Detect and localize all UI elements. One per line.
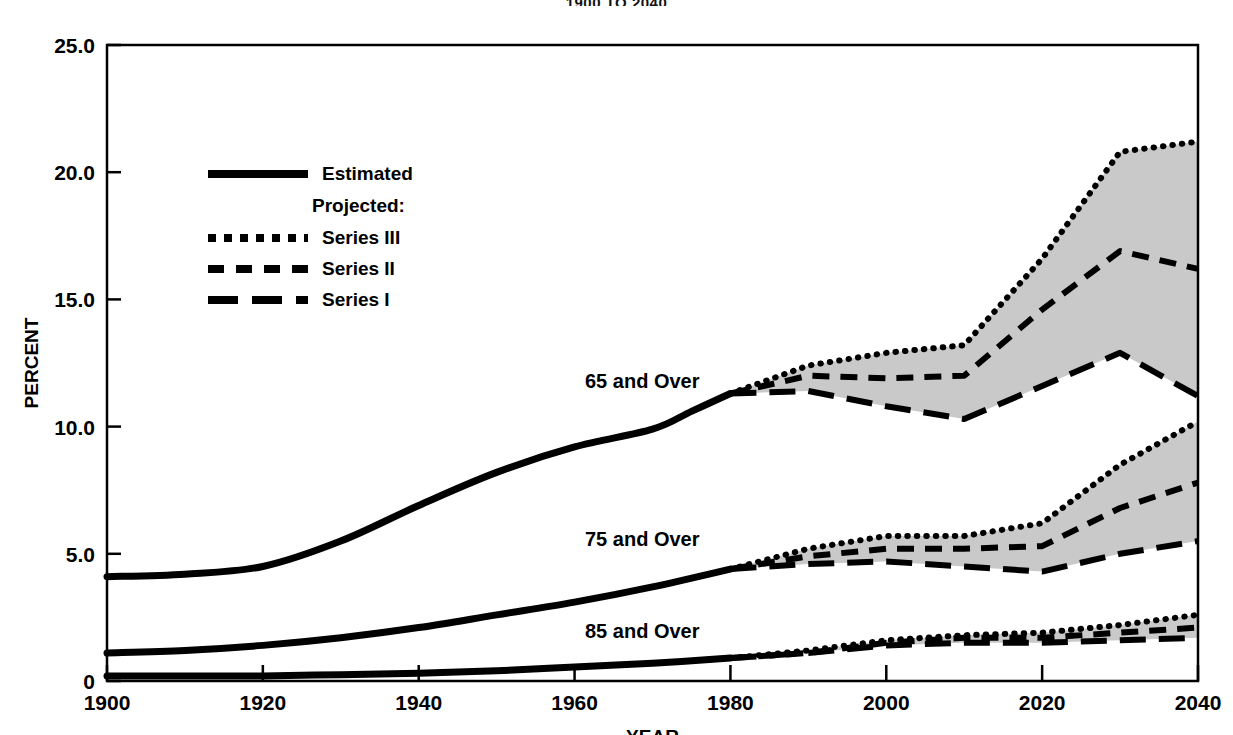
x-tick-label: 1980 — [707, 691, 754, 714]
x-tick-label: 2040 — [1175, 691, 1222, 714]
x-tick-label: 2020 — [1019, 691, 1066, 714]
population-percent-line-chart: 25.020.015.010.05.0019001920194019601980… — [0, 0, 1233, 735]
series-lines — [107, 142, 1198, 676]
legend-series-i-label: Series I — [322, 289, 390, 310]
y-tick-label: 5.0 — [66, 543, 95, 566]
x-tick-label: 1960 — [551, 691, 598, 714]
x-tick-label: 1900 — [84, 691, 131, 714]
y-tick-label: 20.0 — [54, 161, 95, 184]
y-axis-title: PERCENT — [21, 317, 42, 408]
chart-page: 1900 TO 2040 25.020.015.010.05.001900192… — [0, 0, 1233, 735]
y-tick-label: 15.0 — [54, 288, 95, 311]
y-tick-label: 25.0 — [54, 34, 95, 57]
series-annotations: 65 and Over75 and Over85 and Over — [585, 370, 700, 642]
legend-series-iii-label: Series III — [322, 227, 400, 248]
chart-legend: EstimatedProjected:Series IIISeries IISe… — [208, 163, 413, 310]
legend-series-ii-label: Series II — [322, 258, 395, 279]
legend-projected-header-label: Projected: — [312, 195, 405, 216]
x-tick-label: 1920 — [239, 691, 286, 714]
annotation-85-and-over: 85 and Over — [585, 620, 700, 642]
projection-bands — [730, 142, 1198, 658]
annotation-75-and-over: 75 and Over — [585, 528, 700, 550]
x-axis-title: YEAR — [626, 726, 679, 735]
legend-estimated-label: Estimated — [322, 163, 413, 184]
y-tick-label: 10.0 — [54, 416, 95, 439]
x-tick-label: 2000 — [863, 691, 910, 714]
x-tick-label: 1940 — [395, 691, 442, 714]
y-tick-label: 0 — [83, 670, 95, 693]
annotation-65-and-over: 65 and Over — [585, 370, 700, 392]
